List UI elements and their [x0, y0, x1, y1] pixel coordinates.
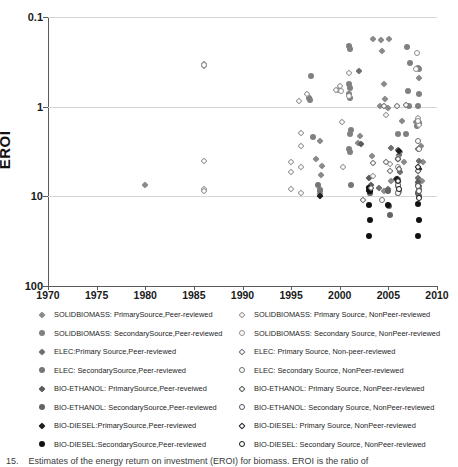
data-point [308, 73, 314, 79]
legend-label: BIO-ETHANOL: PrimarySource,Peer-reveiwed [54, 384, 207, 393]
data-point [415, 201, 421, 207]
plot-area: 1001010.1 197019751980198519901995200020… [48, 17, 437, 286]
data-point [380, 80, 387, 87]
caption-number: 15. [6, 456, 19, 467]
legend-label: BIO-DIESEL:SecondarySource,Peer-reviewed [54, 440, 206, 449]
y-tick-label-100: 0.1 [28, 12, 43, 23]
data-point [415, 103, 421, 109]
legend-label: ELEC: SecondarySource,Peer-reviewed [54, 366, 186, 375]
data-point [201, 62, 207, 68]
data-point [319, 162, 326, 169]
legend-label: ELEC: Secondary Source, NonPeer-reviewed [254, 366, 404, 375]
legend-item-left-2[interactable]: ELEC:Primary Source,Peer-reviewed [36, 343, 236, 360]
data-point [313, 156, 320, 163]
data-point [367, 217, 373, 223]
x-tick-label-2000: 2000 [328, 290, 351, 301]
data-point [416, 195, 422, 201]
diamond-marker-icon [36, 309, 47, 320]
data-point [379, 197, 385, 203]
y-tick-100 [43, 17, 48, 18]
data-point [394, 102, 401, 109]
data-point [348, 182, 354, 188]
x-tick-label-1975: 1975 [85, 290, 108, 301]
legend-label: SOLIDBIOMASS: Primary Source, NonPeer-re… [254, 310, 430, 319]
data-point [288, 159, 295, 166]
data-point [338, 119, 345, 126]
legend-label: BIO-DIESEL: Primary Source, NonPeer-revi… [254, 421, 416, 430]
data-point [307, 97, 313, 103]
legend-item-left-7[interactable]: BIO-DIESEL:SecondarySource,Peer-reviewed [36, 436, 236, 453]
data-point [386, 35, 393, 42]
data-point [357, 132, 364, 139]
legend-item-left-0[interactable]: SOLIDBIOMASS: PrimarySource,Peer-reviewe… [36, 306, 236, 323]
legend-item-left-5[interactable]: BIO-ETHANOL: SecondarySource,Peer-review… [36, 399, 236, 416]
diamond-marker-icon [36, 420, 47, 431]
legend-item-right-5[interactable]: BIO-ETHANOL: Secondary Source, NonPeer-r… [236, 399, 458, 416]
x-tick-label-1995: 1995 [279, 290, 302, 301]
data-point [378, 47, 385, 54]
data-point [338, 88, 344, 94]
figure-caption: 15.Estimates of the energy return on inv… [0, 456, 458, 467]
circle-marker-icon [36, 328, 47, 339]
data-point [416, 188, 422, 194]
data-point [387, 212, 393, 218]
diamond-marker-icon [36, 346, 47, 357]
data-point [339, 163, 346, 170]
x-tick-label-1990: 1990 [231, 290, 254, 301]
data-point [415, 118, 421, 124]
legend-item-left-4[interactable]: BIO-ETHANOL: PrimarySource,Peer-reveiwed [36, 380, 236, 397]
circle-marker-icon [236, 439, 247, 450]
data-point [407, 60, 413, 66]
circle-marker-icon [236, 402, 247, 413]
legend-label: SOLIDBIOMASS: SecondarySource,Peer-revie… [54, 329, 222, 338]
data-point [385, 188, 391, 194]
chart-legend: SOLIDBIOMASS: PrimarySource,Peer-reviewe… [0, 306, 458, 458]
y-tick-label-10: 1 [37, 101, 43, 112]
x-tick-label-1970: 1970 [36, 290, 59, 301]
legend-item-right-3[interactable]: ELEC: Secondary Source, NonPeer-reviewed [236, 362, 458, 379]
data-point [346, 93, 352, 99]
data-point [288, 186, 295, 193]
x-tick-label-2010: 2010 [425, 290, 448, 301]
legend-item-right-7[interactable]: BIO-DIESEL: Secondary Source, NonPeer-re… [236, 436, 458, 453]
data-point [288, 169, 295, 176]
data-point [416, 74, 423, 81]
diamond-marker-icon [36, 383, 47, 394]
legend-item-left-3[interactable]: ELEC: SecondarySource,Peer-reviewed [36, 362, 236, 379]
data-point [347, 131, 353, 137]
data-point [416, 91, 422, 97]
legend-item-left-6[interactable]: BIO-DIESEL:PrimarySource,Peer-reviewed [36, 417, 236, 434]
data-point [310, 134, 316, 140]
legend-item-right-1[interactable]: SOLIDBIOMASS: Secondary Source, NonPeer-… [236, 325, 458, 342]
data-point [369, 35, 376, 42]
data-point [383, 112, 390, 119]
data-point [415, 233, 421, 239]
data-point [356, 67, 363, 74]
diamond-marker-icon [236, 383, 247, 394]
data-point [400, 159, 407, 166]
circle-marker-icon [36, 365, 47, 376]
legend-label: BIO-ETHANOL: SecondarySource,Peer-review… [54, 403, 217, 412]
legend-label: BIO-ETHANOL: Secondary Source, NonPeer-r… [254, 403, 434, 412]
legend-item-left-1[interactable]: SOLIDBIOMASS: SecondarySource,Peer-revie… [36, 325, 236, 342]
legend-item-right-4[interactable]: BIO-ETHANOL: Primary Source, NonPeer-rev… [236, 380, 458, 397]
data-point [347, 46, 353, 52]
y-tick-10 [43, 107, 48, 108]
data-point [403, 131, 409, 137]
x-tick-label-1985: 1985 [182, 290, 205, 301]
data-point [142, 181, 149, 188]
data-point [317, 138, 324, 145]
circle-marker-icon [36, 402, 47, 413]
legend-label: BIO-DIESEL:PrimarySource,Peer-reviewed [54, 421, 196, 430]
data-point [297, 143, 304, 150]
legend-item-right-0[interactable]: SOLIDBIOMASS: Primary Source, NonPeer-re… [236, 306, 458, 323]
data-point [366, 202, 372, 208]
data-point [368, 152, 375, 159]
circle-marker-icon [36, 439, 47, 450]
legend-item-right-6[interactable]: BIO-DIESEL: Primary Source, NonPeer-revi… [236, 417, 458, 434]
diamond-marker-icon [236, 309, 247, 320]
diamond-marker-icon [236, 346, 247, 357]
data-point [414, 50, 420, 56]
legend-item-right-2[interactable]: ELEC: Primary Source, Non-peer-reviewed [236, 343, 458, 360]
data-point [297, 164, 304, 171]
